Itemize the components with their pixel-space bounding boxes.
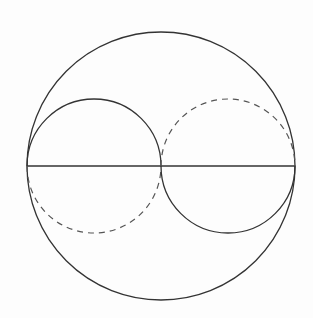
circles-diagram <box>0 0 313 318</box>
left-lower-dashed-arc <box>27 166 161 233</box>
left-upper-solid-arc <box>27 99 161 166</box>
right-upper-dashed-arc <box>161 99 295 166</box>
right-lower-solid-arc <box>161 166 295 233</box>
